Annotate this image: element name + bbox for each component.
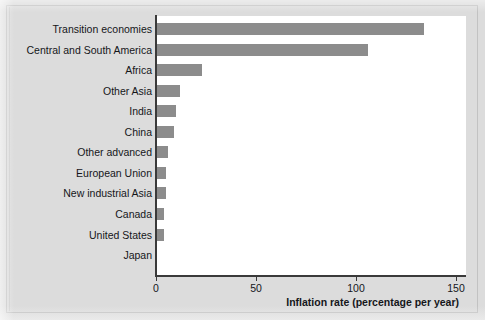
x-axis-tick-label: 50 <box>236 282 276 294</box>
category-labels: Transition economiesCentral and South Am… <box>0 16 152 275</box>
category-label: India <box>2 105 152 117</box>
category-label: China <box>2 126 152 138</box>
x-axis-tick <box>156 275 157 281</box>
x-axis-tick <box>456 275 457 281</box>
category-label: Transition economies <box>2 23 152 35</box>
category-label: Central and South America <box>2 44 152 56</box>
x-axis-tick-label: 0 <box>136 282 176 294</box>
category-label: Africa <box>2 64 152 76</box>
x-axis-tick <box>356 275 357 281</box>
figure: Transition economiesCentral and South Am… <box>0 0 485 320</box>
bar <box>156 146 168 158</box>
category-label: United States <box>2 229 152 241</box>
category-label: New industrial Asia <box>2 187 152 199</box>
bar <box>156 64 202 76</box>
x-axis-tick-label: 100 <box>336 282 376 294</box>
category-label: Other advanced <box>2 146 152 158</box>
x-axis-tick <box>256 275 257 281</box>
bar <box>156 229 164 241</box>
category-label: Japan <box>2 249 152 261</box>
category-label: European Union <box>2 167 152 179</box>
x-axis-line <box>155 275 466 277</box>
bar <box>156 167 166 179</box>
bar <box>156 187 166 199</box>
bar <box>156 208 164 220</box>
bar <box>156 105 176 117</box>
x-axis-title: Inflation rate (percentage per year) <box>0 296 471 308</box>
bar <box>156 85 180 97</box>
y-axis-line <box>155 15 157 276</box>
bar <box>156 23 424 35</box>
x-axis-tick-label: 150 <box>436 282 476 294</box>
category-label: Other Asia <box>2 85 152 97</box>
bar <box>156 44 368 56</box>
category-label: Canada <box>2 208 152 220</box>
bar <box>156 126 174 138</box>
